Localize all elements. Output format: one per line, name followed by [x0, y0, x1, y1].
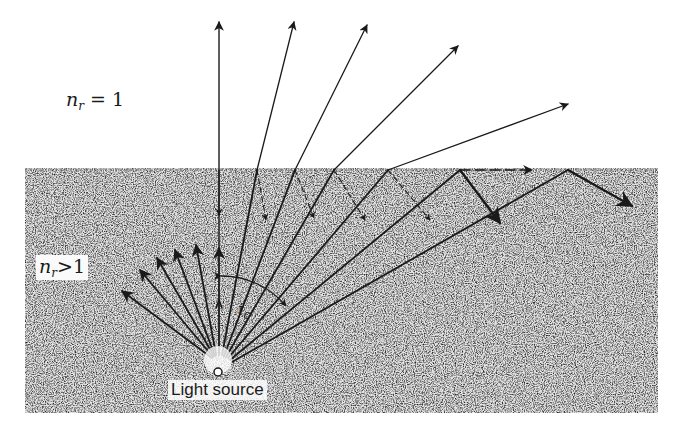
- diagram-svg: [0, 0, 681, 439]
- critical-angle-label: ic: [238, 299, 250, 322]
- light-source-icon: [214, 368, 222, 376]
- light-source-label: Light source: [168, 380, 267, 400]
- air-index-label: nr = 1: [66, 88, 124, 113]
- dense-medium-region: [25, 168, 658, 413]
- ray-2-refracted: [257, 22, 294, 170]
- ray-5-refracted: [388, 104, 568, 170]
- medium-index-label: nr>1: [36, 255, 88, 280]
- diagram-stage: nr = 1 nr>1 ic Light source: [0, 0, 681, 439]
